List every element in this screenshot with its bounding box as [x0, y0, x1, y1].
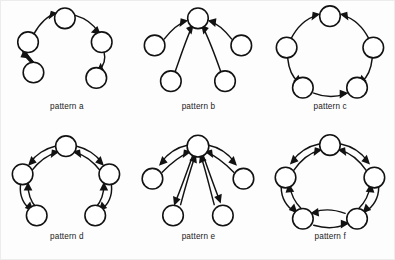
panel-pattern-f: pattern f [264, 131, 395, 260]
panel-pattern-a: pattern a [1, 1, 133, 131]
node-layer-b [144, 8, 251, 91]
caption-pattern-d: pattern d [50, 233, 84, 241]
node-d-3 [85, 205, 106, 226]
node-e-3 [163, 205, 184, 226]
node-layer-e [142, 135, 254, 225]
node-a-1 [23, 62, 44, 83]
node-f-2 [364, 167, 385, 188]
node-d-4 [27, 205, 48, 226]
node-d-1 [56, 136, 77, 157]
node-c-1 [319, 6, 340, 27]
edge-b-4 [203, 28, 220, 71]
node-e-1 [142, 168, 163, 189]
panel-pattern-d: pattern d [1, 131, 133, 260]
node-b-1 [144, 35, 165, 56]
node-c-4 [292, 77, 313, 98]
node-f-4 [292, 208, 313, 229]
edge-e-3-in [181, 157, 195, 205]
node-layer-a [18, 8, 112, 88]
node-d-5 [13, 164, 34, 185]
node-b-hub [188, 8, 209, 29]
node-e-2 [233, 168, 254, 189]
edge-a-2 [34, 14, 56, 35]
caption-pattern-f: pattern f [314, 233, 345, 241]
node-a-2 [18, 32, 39, 53]
caption-pattern-b: pattern b [182, 103, 216, 111]
figure-frame: pattern a [0, 0, 395, 260]
node-layer-c [276, 6, 383, 98]
node-b-2 [231, 35, 252, 56]
caption-pattern-c: pattern c [314, 103, 347, 111]
graph-pattern-b [136, 1, 261, 105]
graph-pattern-e [136, 131, 261, 235]
caption-pattern-e: pattern e [182, 233, 216, 241]
node-a-3 [55, 8, 76, 29]
graph-pattern-a [4, 1, 129, 105]
arrow-b-2 [208, 18, 217, 27]
node-f-1 [319, 135, 340, 156]
node-a-5 [86, 68, 107, 89]
node-c-2 [363, 37, 384, 58]
node-e-hub [187, 135, 209, 157]
node-b-4 [215, 71, 236, 92]
panel-pattern-c: pattern c [264, 1, 395, 131]
pattern-panel-grid: pattern a [1, 1, 395, 260]
graph-pattern-c [268, 1, 393, 105]
node-b-3 [161, 71, 182, 92]
node-f-3 [346, 208, 367, 229]
edge-b-3 [175, 28, 191, 71]
node-a-4 [92, 32, 113, 53]
panel-pattern-b: pattern b [133, 1, 265, 131]
node-d-2 [99, 164, 120, 185]
graph-pattern-f [268, 131, 393, 235]
arrow-b-1 [180, 18, 189, 27]
panel-pattern-e: pattern e [133, 131, 265, 260]
graph-pattern-d [4, 131, 129, 235]
node-e-4 [213, 205, 234, 226]
edge-e-3-out [175, 156, 192, 203]
node-layer-d [13, 136, 120, 226]
node-c-5 [276, 37, 297, 58]
node-layer-f [275, 135, 384, 229]
node-f-5 [275, 167, 296, 188]
caption-pattern-a: pattern a [50, 103, 84, 111]
node-c-3 [346, 77, 367, 98]
